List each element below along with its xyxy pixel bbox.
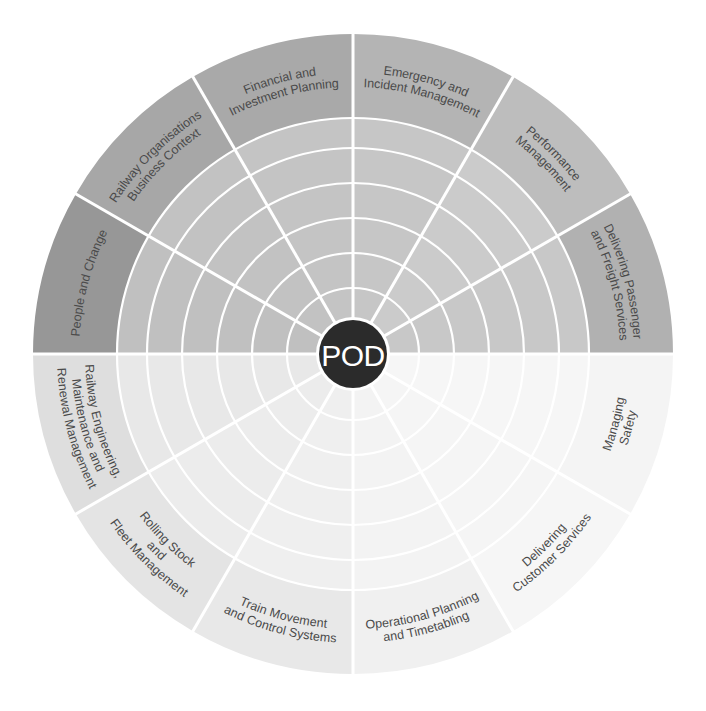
pod-wheel-diagram: Emergency andIncident ManagementPerforma… [0,0,706,711]
hub-label: POD [321,339,385,372]
pod-hub: POD [316,317,390,391]
